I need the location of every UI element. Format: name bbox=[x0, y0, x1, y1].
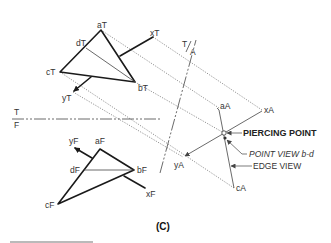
label-aA: aA bbox=[220, 101, 231, 111]
auxiliary-view: aA cA xA yA bbox=[174, 101, 274, 193]
descriptive-geometry-diagram: T F T A aT dT cT bT xT yT aF bF cF dF xF… bbox=[0, 0, 331, 243]
fold-label-a: A bbox=[190, 47, 196, 57]
fold-label-t-aux: T bbox=[182, 39, 187, 49]
label-yA: yA bbox=[174, 160, 184, 170]
label-cF: cF bbox=[45, 200, 54, 210]
piercing-point-label: PIERCING POINT bbox=[243, 128, 317, 138]
triangle-front-view bbox=[58, 149, 134, 204]
label-yF: yF bbox=[69, 136, 78, 146]
label-cA: cA bbox=[236, 183, 246, 193]
label-dT: dT bbox=[76, 38, 86, 48]
label-bT: bT bbox=[138, 83, 148, 93]
front-view: aF bF cF dF xF yF bbox=[45, 136, 155, 210]
label-aT: aT bbox=[97, 20, 107, 30]
label-bF: bF bbox=[137, 165, 147, 175]
projection-lines bbox=[60, 30, 262, 188]
label-xF: xF bbox=[146, 189, 155, 199]
point-view-bd-marker bbox=[223, 136, 226, 139]
figure-caption: (C) bbox=[156, 221, 170, 232]
point-view-label: POINT VIEW b-d bbox=[249, 149, 314, 159]
line-x-front bbox=[124, 176, 145, 188]
piercing-point-marker bbox=[222, 131, 226, 135]
top-view: aT dT cT bT xT yT bbox=[46, 20, 159, 103]
label-xT: xT bbox=[150, 28, 159, 38]
label-xA: xA bbox=[264, 105, 274, 115]
edge-view-line bbox=[217, 108, 234, 188]
edge-view-label: EDGE VIEW bbox=[253, 161, 301, 171]
annotations: PIERCING POINT POINT VIEW b-d EDGE VIEW bbox=[227, 128, 317, 171]
line-y-top bbox=[74, 77, 91, 91]
fold-line-tf: T F bbox=[12, 107, 162, 130]
fold-label-f: F bbox=[14, 120, 19, 130]
label-cT: cT bbox=[46, 67, 55, 77]
fold-label-t: T bbox=[14, 107, 19, 117]
label-dF: dF bbox=[70, 165, 80, 175]
line-y-front bbox=[75, 148, 92, 158]
label-aF: aF bbox=[95, 136, 105, 146]
label-yT: yT bbox=[62, 93, 71, 103]
